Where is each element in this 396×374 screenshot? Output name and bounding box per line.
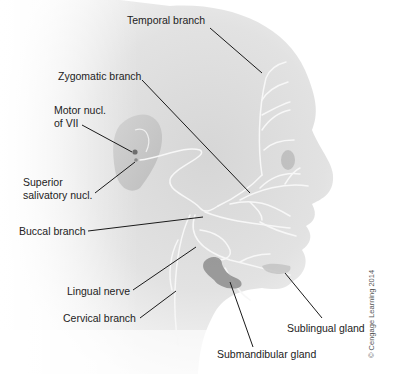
label-temporal-branch: Temporal branch	[127, 14, 205, 26]
label-lingual-nerve: Lingual nerve	[67, 285, 130, 297]
superior-salivatory-nucleus	[134, 158, 138, 162]
label-superior-salivatory-line1: Superior	[23, 176, 63, 188]
label-motor-nucleus-line2: of VII	[54, 117, 79, 129]
diagram-stage: Temporal branch Zygomatic branch Motor n…	[0, 0, 396, 374]
motor-nucleus-vii	[132, 149, 137, 154]
label-sublingual-gland: Sublingual gland	[287, 322, 365, 334]
label-buccal-branch: Buccal branch	[19, 225, 86, 237]
label-zygomatic-branch: Zygomatic branch	[58, 70, 141, 82]
label-superior-salivatory-line2: salivatory nucl.	[23, 189, 92, 201]
label-cervical-branch: Cervical branch	[63, 312, 136, 324]
label-motor-nucleus-line1: Motor nucl.	[54, 104, 106, 116]
label-submandibular-gland: Submandibular gland	[217, 348, 316, 360]
copyright-notice: © Cengage Learning 2014	[367, 270, 376, 358]
